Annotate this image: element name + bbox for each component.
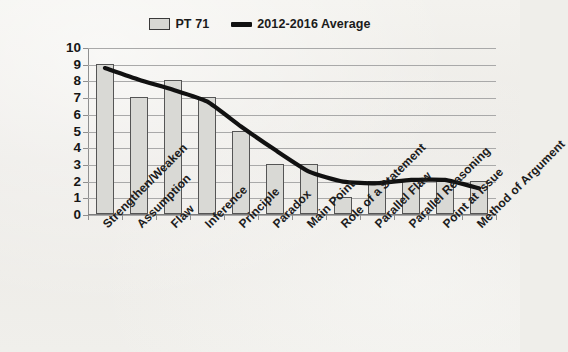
y-tick-label: 6 xyxy=(73,107,81,122)
x-tick-mark xyxy=(326,215,327,220)
legend-item-average: 2012-2016 Average xyxy=(231,17,370,31)
chart-legend: PT 71 2012-2016 Average xyxy=(0,17,520,31)
x-tick-mark xyxy=(258,215,259,220)
x-tick-mark xyxy=(496,215,497,220)
y-tick-label: 8 xyxy=(73,74,81,89)
plot-area: 012345678910 xyxy=(88,48,496,215)
x-tick-mark xyxy=(156,215,157,220)
y-tick-label: 10 xyxy=(66,40,81,55)
x-tick-mark xyxy=(122,215,123,220)
x-tick-mark xyxy=(462,215,463,220)
x-tick-mark xyxy=(428,215,429,220)
x-tick-mark xyxy=(292,215,293,220)
y-tick-label: 3 xyxy=(73,157,81,172)
legend-label-average: 2012-2016 Average xyxy=(257,17,370,31)
legend-label-pt71: PT 71 xyxy=(175,17,209,31)
x-tick-mark xyxy=(88,215,89,220)
y-tick-label: 2 xyxy=(73,174,81,189)
y-tick-label: 4 xyxy=(73,140,81,155)
line-swatch-icon xyxy=(231,22,252,27)
x-tick-mark xyxy=(360,215,361,220)
y-tick-label: 7 xyxy=(73,90,81,105)
x-tick-mark xyxy=(394,215,395,220)
line-series-average xyxy=(88,48,496,215)
x-tick-mark xyxy=(190,215,191,220)
y-tick-label: 9 xyxy=(73,57,81,72)
x-tick-mark xyxy=(224,215,225,220)
bar-swatch-icon xyxy=(149,18,170,30)
y-tick-label: 5 xyxy=(73,124,81,139)
trend-line-path xyxy=(105,68,479,188)
legend-item-pt71: PT 71 xyxy=(149,17,209,31)
y-tick-label: 1 xyxy=(73,190,81,205)
y-tick-label: 0 xyxy=(73,207,81,222)
